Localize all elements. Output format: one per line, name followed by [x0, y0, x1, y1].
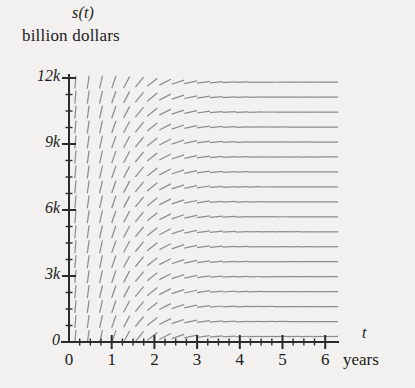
slope-segment — [210, 112, 223, 113]
slope-segment — [223, 112, 236, 113]
slope-segment — [184, 335, 197, 338]
slope-segment — [87, 195, 89, 208]
slope-segment — [210, 276, 223, 277]
slope-segment — [87, 225, 89, 238]
slope-segment — [135, 137, 143, 147]
slope-segment — [112, 300, 116, 312]
slope-segment — [235, 202, 248, 203]
slope-segment — [100, 315, 103, 328]
slope-segment — [223, 187, 236, 188]
slope-segment — [159, 304, 171, 310]
slope-segment — [100, 225, 103, 238]
slope-segment — [100, 121, 103, 134]
slope-segment — [223, 231, 236, 232]
slope-segment — [135, 182, 143, 192]
slope-segment — [172, 260, 184, 264]
slope-segment — [223, 336, 236, 337]
slope-segment — [124, 226, 130, 238]
slope-segment — [172, 334, 184, 338]
slope-segment — [112, 285, 116, 297]
slope-segment — [159, 199, 171, 205]
slope-segment — [210, 171, 223, 172]
slope-segment — [112, 211, 116, 223]
slope-field-segments — [75, 76, 338, 343]
slope-segment — [184, 171, 197, 174]
slope-segment — [223, 201, 236, 202]
slope-segment — [235, 306, 248, 307]
slope-segment — [75, 315, 76, 328]
slope-segment — [223, 172, 236, 173]
slope-segment — [184, 186, 197, 189]
slope-segment — [75, 300, 76, 313]
slope-segment — [223, 246, 236, 247]
slope-segment — [235, 261, 248, 262]
slope-segment — [147, 123, 157, 131]
slope-segment — [223, 97, 236, 98]
slope-segment — [159, 319, 171, 325]
slope-segment — [197, 156, 210, 158]
slope-segment — [87, 315, 89, 328]
slope-segment — [75, 225, 76, 238]
slope-segment — [197, 171, 210, 173]
x-tick-label: 6 — [313, 350, 337, 370]
slope-segment — [223, 82, 236, 83]
slope-segment — [100, 210, 103, 223]
slope-segment — [159, 154, 171, 160]
slope-segment — [75, 195, 76, 208]
slope-segment — [159, 184, 171, 190]
slope-segment — [87, 255, 89, 268]
slope-segment — [159, 169, 171, 175]
slope-segment — [184, 245, 197, 248]
slope-segment — [135, 317, 143, 327]
slope-segment — [147, 228, 157, 236]
slope-segment — [124, 151, 130, 163]
slope-segment — [223, 216, 236, 217]
slope-segment — [159, 289, 171, 295]
slope-segment — [184, 320, 197, 323]
slope-segment — [75, 121, 76, 134]
slope-segment — [112, 76, 116, 88]
slope-segment — [210, 97, 223, 98]
slope-segment — [75, 151, 76, 164]
slope-segment — [135, 242, 143, 252]
x-tick-label: 2 — [142, 350, 166, 370]
slope-segment — [87, 151, 89, 164]
slope-segment — [135, 77, 143, 87]
slope-segment — [159, 259, 171, 265]
slope-segment — [147, 243, 157, 251]
slope-segment — [87, 166, 89, 179]
slope-segment — [184, 96, 197, 99]
slope-segment — [75, 210, 76, 223]
slope-segment — [172, 110, 184, 114]
x-tick-label: 4 — [228, 350, 252, 370]
slope-segment — [172, 185, 184, 189]
slope-segment — [197, 231, 210, 233]
slope-segment — [159, 229, 171, 235]
slope-segment — [210, 231, 223, 232]
slope-segment — [87, 240, 89, 253]
slope-segment — [147, 93, 157, 101]
slope-segment — [223, 321, 236, 322]
slope-segment — [124, 136, 130, 148]
slope-segment — [197, 81, 210, 83]
slope-segment — [100, 196, 103, 209]
slope-segment — [135, 287, 143, 297]
slope-segment — [147, 258, 157, 266]
slope-segment — [159, 94, 171, 100]
slope-segment — [124, 301, 130, 313]
slope-segment — [112, 151, 116, 163]
slope-segment — [124, 211, 130, 223]
slope-segment — [112, 226, 116, 238]
slope-segment — [235, 127, 248, 128]
slope-segment — [172, 155, 184, 159]
slope-segment — [112, 166, 116, 178]
slope-segment — [75, 180, 76, 193]
slope-segment — [184, 200, 197, 203]
slope-segment — [147, 332, 157, 340]
slope-segment — [223, 291, 236, 292]
slope-segment — [210, 336, 223, 337]
slope-segment — [184, 141, 197, 144]
slope-segment — [147, 108, 157, 116]
slope-segment — [159, 124, 171, 130]
slope-segment — [197, 246, 210, 248]
